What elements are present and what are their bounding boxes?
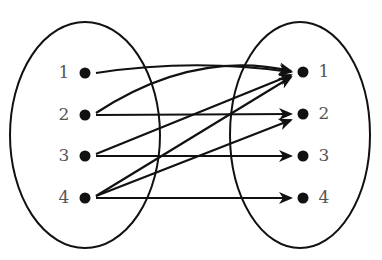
domain-label-1: 1 xyxy=(57,62,71,82)
codomain-point-1 xyxy=(298,67,309,78)
codomain-point-4 xyxy=(298,193,309,204)
domain-points xyxy=(80,68,91,204)
domain-label-3: 3 xyxy=(57,145,71,165)
domain-set-ellipse xyxy=(10,22,160,248)
domain-point-1 xyxy=(80,68,91,79)
relation-diagram: 1 2 3 4 1 2 3 4 xyxy=(0,0,382,260)
mapping-diagram-graphic xyxy=(0,0,382,260)
codomain-point-3 xyxy=(298,151,309,162)
codomain-label-1: 1 xyxy=(317,61,331,81)
codomain-label-2: 2 xyxy=(317,103,331,123)
arrow-4-to-2 xyxy=(96,120,291,196)
mapping-arrows xyxy=(96,65,291,198)
domain-point-2 xyxy=(80,110,91,121)
codomain-label-4: 4 xyxy=(317,187,331,207)
codomain-points xyxy=(298,67,309,204)
domain-point-4 xyxy=(80,193,91,204)
domain-label-4: 4 xyxy=(57,187,71,207)
codomain-point-2 xyxy=(298,109,309,120)
codomain-label-3: 3 xyxy=(317,145,331,165)
domain-label-2: 2 xyxy=(57,104,71,124)
arrow-2-to-1 xyxy=(96,65,291,113)
domain-point-3 xyxy=(80,151,91,162)
